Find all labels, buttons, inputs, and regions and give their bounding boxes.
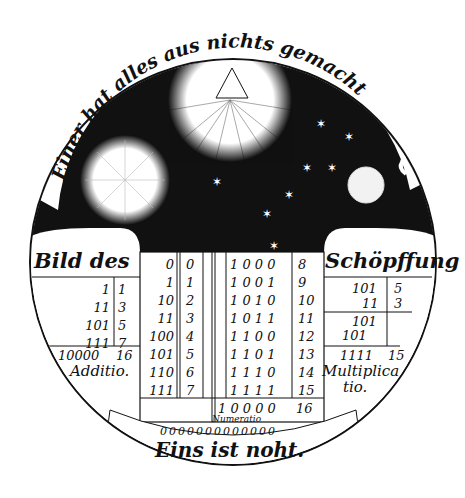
num-decimal: 9 xyxy=(298,274,315,292)
num-decimal: 7 xyxy=(186,382,194,400)
svg-text:✶: ✶ xyxy=(262,207,272,221)
num-decimal: 12 xyxy=(298,328,315,346)
num-binary: 10 xyxy=(157,292,174,310)
num-decimal: 5 xyxy=(186,346,194,364)
num-decimal: 1 xyxy=(186,274,194,292)
mult-label-2: tio. xyxy=(343,378,367,396)
num-decimal: 3 xyxy=(186,310,194,328)
addition-decimal-column: 1 3 5 7 xyxy=(118,281,126,353)
numeration-total-decimal: 16 xyxy=(296,401,313,416)
svg-text:✶: ✶ xyxy=(302,161,312,175)
mult-operand-1: 101 xyxy=(352,281,377,296)
svg-text:✶: ✶ xyxy=(327,161,337,175)
num-decimal: 8 xyxy=(298,256,315,274)
num-decimal: 4 xyxy=(186,328,194,346)
mult-operand-1-decimal: 5 xyxy=(394,281,402,296)
num-decimal: 6 xyxy=(186,364,194,382)
num-binary: 101 xyxy=(149,346,174,364)
svg-text:✶: ✶ xyxy=(344,130,354,144)
addition-decimal: 1 xyxy=(118,281,126,299)
addition-binary: 1 xyxy=(102,281,110,299)
addition-decimal: 5 xyxy=(118,317,126,335)
mult-product-binary: 1111 xyxy=(340,348,373,363)
num-binary: 1 1 1 1 xyxy=(230,382,275,400)
mult-operand-2-decimal: 3 xyxy=(394,296,402,311)
num-binary: 1 1 0 0 xyxy=(230,328,275,346)
mult-partial-1: 101 xyxy=(352,314,377,329)
num-binary: 0 xyxy=(166,256,174,274)
num-decimal: 10 xyxy=(298,292,315,310)
num-decimal: 2 xyxy=(186,292,194,310)
svg-text:✶: ✶ xyxy=(212,175,222,189)
numeration-right-decimal: 8 9 10 11 12 13 14 15 xyxy=(298,256,315,400)
zero-row: 0000000000000 xyxy=(160,424,277,439)
num-binary: 1 xyxy=(166,274,174,292)
numeration-left-binary: 0 1 10 11 100 101 110 111 xyxy=(148,256,174,400)
right-header: Schöpffung xyxy=(325,248,460,273)
addition-decimal: 3 xyxy=(118,299,126,317)
num-binary: 110 xyxy=(149,364,174,382)
addition-binary: 11 xyxy=(93,299,110,317)
num-decimal: 11 xyxy=(298,310,315,328)
svg-text:✶: ✶ xyxy=(269,239,279,253)
num-binary: 1 0 0 0 xyxy=(230,256,275,274)
left-header: Bild des xyxy=(34,248,130,273)
addition-binary-column: 1 11 101 111 xyxy=(82,281,110,353)
addition-sum-binary: 10000 xyxy=(58,348,99,363)
mult-product-decimal: 15 xyxy=(388,348,405,363)
numeratio-label: Numeratio xyxy=(212,414,261,424)
num-decimal: 15 xyxy=(298,382,315,400)
num-binary: 11 xyxy=(157,310,174,328)
num-decimal: 14 xyxy=(298,364,315,382)
num-binary: 1 0 1 0 xyxy=(230,292,275,310)
svg-text:✶: ✶ xyxy=(316,117,326,131)
num-binary: 100 xyxy=(149,328,174,346)
sun-icon xyxy=(80,135,170,225)
num-binary: 1 0 1 1 xyxy=(230,310,275,328)
num-binary: 111 xyxy=(149,382,174,400)
moon-icon xyxy=(348,167,384,203)
num-binary: 1 0 0 1 xyxy=(230,274,275,292)
addition-sum-decimal: 16 xyxy=(116,348,133,363)
num-binary: 1 1 1 0 xyxy=(230,364,275,382)
num-decimal: 13 xyxy=(298,346,315,364)
num-binary: 1 1 0 1 xyxy=(230,346,275,364)
svg-text:✶: ✶ xyxy=(284,188,294,202)
numeration-right-binary: 1 0 0 0 1 0 0 1 1 0 1 0 1 0 1 1 1 1 0 0 … xyxy=(230,256,275,400)
addition-label: Additio. xyxy=(70,362,129,380)
addition-binary: 101 xyxy=(85,317,110,335)
num-decimal: 0 xyxy=(186,256,194,274)
bottom-motto: Eins ist noht. xyxy=(155,438,304,462)
mult-operand-2: 11 xyxy=(362,296,379,311)
mult-partial-2: 101 xyxy=(342,328,367,343)
numeration-left-decimal: 0 1 2 3 4 5 6 7 xyxy=(186,256,194,400)
